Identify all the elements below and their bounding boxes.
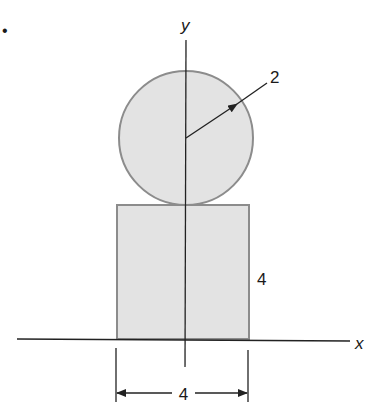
bullet-mark: •	[2, 22, 8, 39]
rectangle-height-label: 4	[257, 270, 266, 289]
y-axis-label: y	[180, 16, 191, 35]
rectangle-shape	[117, 205, 249, 339]
radius-leader-line	[237, 83, 267, 104]
radius-label: 2	[270, 68, 279, 87]
composite-shape-diagram: • y x 2 4 4	[0, 0, 372, 408]
rectangle-width-label: 4	[179, 385, 188, 404]
x-axis-label: x	[354, 334, 364, 353]
